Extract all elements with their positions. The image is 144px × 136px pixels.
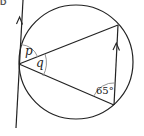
chord-right xyxy=(114,25,118,105)
angle-q-label: q xyxy=(36,56,44,70)
circle-theorem-diagram: p q 65° xyxy=(0,0,144,136)
angle-given-label: 65° xyxy=(96,85,114,96)
chord-top xyxy=(19,25,118,64)
angle-p-label: p xyxy=(25,44,33,58)
